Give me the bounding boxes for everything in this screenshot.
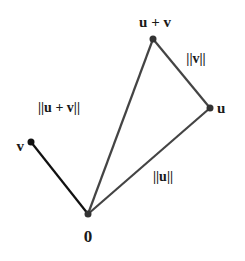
triangle-inequality-diagram: u + v u v 0 ||v|| ||u + v|| ||u|| xyxy=(0,0,245,261)
point-u xyxy=(207,105,214,112)
label-v: v xyxy=(17,138,25,154)
segment-u-to-u-plus-v xyxy=(153,39,210,108)
segment-origin-to-u xyxy=(88,108,210,214)
segment-origin-to-u-plus-v xyxy=(88,39,153,214)
point-v xyxy=(28,139,35,146)
label-norm-v: ||v|| xyxy=(186,51,205,66)
label-norm-u-plus-v: ||u + v|| xyxy=(38,100,80,115)
diagram-svg: u + v u v 0 ||v|| ||u + v|| ||u|| xyxy=(0,0,245,261)
point-u-plus-v xyxy=(150,36,157,43)
segment-origin-to-v xyxy=(31,142,88,214)
label-norm-u: ||u|| xyxy=(153,169,173,184)
label-u: u xyxy=(217,100,225,116)
label-u-plus-v: u + v xyxy=(139,14,171,30)
point-origin xyxy=(85,211,92,218)
label-origin: 0 xyxy=(84,227,93,246)
